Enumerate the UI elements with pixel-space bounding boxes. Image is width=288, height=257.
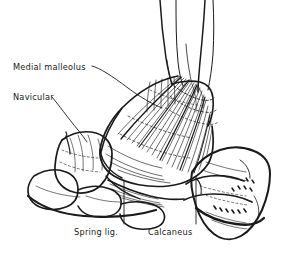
label-calcaneus: Calcaneus [148, 228, 192, 236]
spring-ligament [106, 176, 184, 207]
deltoid-ligament-fan [100, 76, 213, 187]
label-medial-malleolus: Medial malleolus [13, 63, 86, 71]
label-spring-lig: Spring lig. [74, 228, 118, 236]
leader-medial-malleolus [92, 66, 162, 108]
anatomical-figure: Medial malleolus Navicular Spring lig. C… [0, 0, 288, 257]
ankle-ligament-illustration [0, 0, 288, 257]
label-navicular: Navicular [13, 93, 54, 101]
